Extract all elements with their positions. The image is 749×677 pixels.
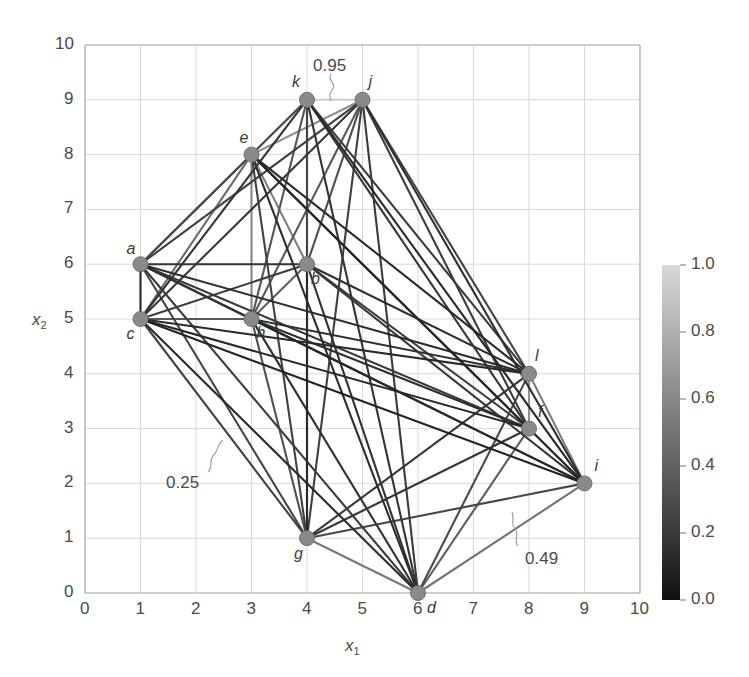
x-axis-tick-label: 0 xyxy=(80,599,89,619)
graph-node-a[interactable] xyxy=(133,257,148,272)
graph-node-label-j: j xyxy=(369,73,373,91)
y-axis-tick-label: 9 xyxy=(64,89,73,109)
x-axis-tick-label: 1 xyxy=(136,599,145,619)
x-axis-tick-label: 4 xyxy=(302,599,311,619)
graph-edge xyxy=(141,264,308,319)
graph-node-label-c: c xyxy=(127,325,135,343)
y-axis-tick-label: 3 xyxy=(64,418,73,438)
graph-node-label-l: l xyxy=(535,347,539,365)
edge-weight-annotation: 0.25 xyxy=(166,473,199,493)
x-axis-tick-label: 5 xyxy=(358,599,367,619)
y-axis-tick-label: 2 xyxy=(64,472,73,492)
colorbar-ticks xyxy=(680,265,686,600)
edge-weight-annotation: 0.95 xyxy=(313,56,346,76)
y-axis-tick-label: 8 xyxy=(64,144,73,164)
y-axis-tick-label: 0 xyxy=(64,582,73,602)
x-axis-title: x1 xyxy=(345,636,360,657)
graph-node-label-i: i xyxy=(595,457,599,475)
colorbar-tick-label: 0.0 xyxy=(691,589,715,609)
y-axis-tick-label: 1 xyxy=(64,527,73,547)
x-axis-tick-label: 6 xyxy=(413,599,422,619)
x-axis-tick-label: 9 xyxy=(580,599,589,619)
x-axis-tick-label: 10 xyxy=(630,599,649,619)
figure-root: 012345678910012345678910x2x1abcdefghijkl… xyxy=(0,0,749,677)
colorbar-tick-label: 0.6 xyxy=(691,388,715,408)
graph-node-k[interactable] xyxy=(300,92,315,107)
x-axis-tick-label: 7 xyxy=(469,599,478,619)
graph-node-label-k: k xyxy=(292,73,300,91)
graph-node-label-b: b xyxy=(311,270,320,288)
y-axis-tick-label: 4 xyxy=(64,363,73,383)
graph-node-label-d: d xyxy=(427,599,436,617)
annotation-leader-line xyxy=(330,74,334,101)
colorbar-tick-label: 0.8 xyxy=(691,321,715,341)
graph-node-label-a: a xyxy=(127,240,136,258)
x-axis-tick-label: 2 xyxy=(191,599,200,619)
y-axis-title: x2 xyxy=(32,310,47,331)
graph-node-j[interactable] xyxy=(355,92,370,107)
graph-node-l[interactable] xyxy=(522,366,537,381)
graph-node-label-e: e xyxy=(240,129,249,147)
graph-edge xyxy=(141,100,308,264)
graph-node-label-h: h xyxy=(257,324,266,342)
x-axis-tick-label: 3 xyxy=(247,599,256,619)
graph-edge xyxy=(307,100,363,264)
graph-node-i[interactable] xyxy=(577,476,592,491)
y-axis-tick-label: 6 xyxy=(64,253,73,273)
colorbar-tick-label: 0.2 xyxy=(691,522,715,542)
annotation-leader-line xyxy=(208,440,223,472)
graph-node-c[interactable] xyxy=(133,312,148,327)
graph-node-f[interactable] xyxy=(522,421,537,436)
colorbar-gradient xyxy=(662,265,680,600)
colorbar-tick-label: 0.4 xyxy=(691,455,715,475)
edge-weight-annotation: 0.49 xyxy=(525,549,558,569)
graph-edge xyxy=(307,100,585,484)
graph-node-g[interactable] xyxy=(300,531,315,546)
graph-node-e[interactable] xyxy=(244,147,259,162)
graph-scatter-plot xyxy=(0,0,749,677)
graph-node-label-f: f xyxy=(538,403,542,421)
y-axis-tick-label: 10 xyxy=(55,34,74,54)
graph-node-label-g: g xyxy=(294,545,303,563)
y-axis-tick-label: 7 xyxy=(64,198,73,218)
colorbar-tick-label: 1.0 xyxy=(691,254,715,274)
graph-edge xyxy=(141,319,419,593)
x-axis-tick-label: 8 xyxy=(524,599,533,619)
y-axis-tick-label: 5 xyxy=(64,308,73,328)
